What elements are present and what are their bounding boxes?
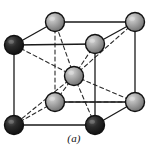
atom-sphere (46, 93, 65, 112)
figure-container: (a) (0, 0, 148, 152)
corner-atom-top-back-right (126, 13, 145, 32)
figure-caption: (a) (0, 132, 148, 144)
corner-atom-bottom-back-right (126, 93, 145, 112)
corner-atom-top-back-left (46, 13, 65, 32)
corner-atom-bottom-back-left (46, 93, 65, 112)
atom-highlight (68, 71, 74, 75)
atom-highlight (89, 120, 95, 124)
bcc-unit-cell-diagram (0, 0, 148, 152)
atom-sphere (86, 35, 105, 54)
corner-atom-top-front-right (86, 35, 105, 54)
atom-sphere (5, 36, 24, 55)
body-center-atom (65, 67, 84, 86)
atom-highlight (49, 17, 55, 21)
atom-highlight (129, 17, 135, 21)
atom-highlight (129, 97, 135, 101)
atom-highlight (49, 97, 55, 101)
atom-sphere (65, 67, 84, 86)
atom-highlight (89, 39, 95, 43)
atom-sphere (46, 13, 65, 32)
atom-sphere (126, 13, 145, 32)
corner-atom-top-front-left (5, 36, 24, 55)
atom-sphere (126, 93, 145, 112)
atom-highlight (8, 40, 14, 44)
atom-highlight (8, 120, 14, 124)
